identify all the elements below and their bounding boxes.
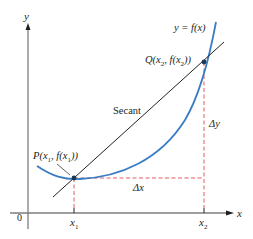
p-leader-line xyxy=(57,164,70,175)
x1-tick-label: x1 xyxy=(69,216,79,231)
x2-tick-label: x2 xyxy=(198,216,208,231)
secant-diagram: y x 0 x1 x2 y = f(x) Secant Q(x2, f(x2))… xyxy=(0,0,253,239)
point-p xyxy=(72,176,77,181)
x-axis-label: x xyxy=(236,207,242,219)
point-q xyxy=(202,60,207,65)
x-axis-arrow-icon xyxy=(226,211,234,216)
curve-label: y = f(x) xyxy=(173,22,206,34)
origin-label: 0 xyxy=(17,212,22,223)
point-p-label: P(x1, f(x1)) xyxy=(32,150,78,164)
secant-line xyxy=(53,42,224,197)
point-q-label: Q(x2, f(x2)) xyxy=(145,54,192,68)
y-axis-arrow-icon xyxy=(26,23,31,30)
delta-y-label: Δy xyxy=(208,118,220,129)
secant-label: Secant xyxy=(113,105,141,116)
delta-x-label: Δx xyxy=(132,182,144,193)
y-axis-label: y xyxy=(23,10,29,22)
